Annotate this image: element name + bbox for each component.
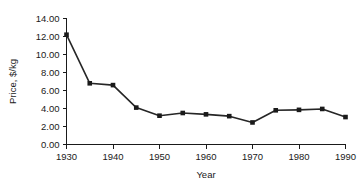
data-point-marker xyxy=(180,111,185,116)
y-tick-label: 6.00 xyxy=(41,85,60,96)
price-per-kg-line-chart: 0.002.004.006.008.0010.0012.0014.00 1930… xyxy=(0,0,361,187)
x-axis-title: Year xyxy=(196,169,215,180)
x-tick-label: 1930 xyxy=(56,151,77,162)
data-point-marker xyxy=(250,120,255,125)
price-series-markers xyxy=(64,32,348,124)
data-point-marker xyxy=(64,32,69,37)
chart-axes xyxy=(67,19,346,145)
y-tick-label: 12.00 xyxy=(36,31,60,42)
y-tick-label: 14.00 xyxy=(36,13,60,24)
x-tick-label: 1950 xyxy=(149,151,170,162)
y-axis-tick-labels: 0.002.004.006.008.0010.0012.0014.00 xyxy=(36,13,60,150)
data-point-marker xyxy=(134,105,139,110)
data-point-marker xyxy=(111,83,116,88)
data-point-marker xyxy=(297,108,302,113)
y-tick-label: 4.00 xyxy=(41,103,60,114)
chart-plot-svg: 0.002.004.006.008.0010.0012.0014.00 1930… xyxy=(0,0,361,187)
x-tick-label: 1980 xyxy=(288,151,309,162)
x-tick-label: 1970 xyxy=(242,151,263,162)
data-point-marker xyxy=(343,115,348,120)
y-tick-label: 2.00 xyxy=(41,121,60,132)
x-tick-label: 1990 xyxy=(335,151,356,162)
y-tick-label: 10.00 xyxy=(36,49,60,60)
x-axis-tick-labels: 1930194019501960197019801990 xyxy=(56,151,356,162)
data-point-marker xyxy=(227,114,232,119)
y-axis-tick-marks xyxy=(63,19,67,145)
x-tick-label: 1940 xyxy=(102,151,123,162)
price-series-line xyxy=(67,35,346,123)
data-point-marker xyxy=(320,107,325,112)
data-point-marker xyxy=(204,112,209,117)
x-tick-label: 1960 xyxy=(195,151,216,162)
data-point-marker xyxy=(157,113,162,118)
data-point-marker xyxy=(273,108,278,113)
y-tick-label: 0.00 xyxy=(41,139,60,150)
y-tick-label: 8.00 xyxy=(41,67,60,78)
data-point-marker xyxy=(87,81,92,86)
x-axis-tick-marks xyxy=(67,145,346,149)
y-axis-title: Price, $/kg xyxy=(7,59,18,104)
